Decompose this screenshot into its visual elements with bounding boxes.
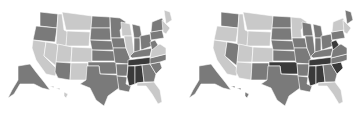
state-me [345, 10, 353, 24]
state-az [55, 62, 71, 80]
state-ut [237, 44, 253, 62]
state-or [33, 26, 57, 42]
state-wy [247, 31, 271, 46]
state-sd [90, 28, 111, 40]
state-az [236, 62, 252, 80]
state-fl [318, 82, 343, 104]
state-fl [137, 82, 162, 104]
state-mt [243, 12, 273, 30]
state-in [315, 38, 321, 52]
state-hi [50, 86, 68, 98]
state-ne [271, 40, 295, 50]
state-co [71, 47, 92, 62]
state-me [164, 10, 172, 24]
state-sd [271, 28, 292, 40]
state-nd [91, 16, 110, 28]
state-or [214, 26, 238, 42]
state-nd [272, 16, 291, 28]
state-in [134, 38, 140, 52]
choropleth-map-right [181, 0, 362, 120]
state-nm [251, 63, 269, 80]
choropleth-map-left [0, 0, 181, 120]
state-mt [62, 12, 92, 30]
state-ia [292, 38, 307, 48]
state-ne [90, 40, 114, 50]
state-ks [273, 50, 296, 61]
state-ks [92, 50, 115, 61]
state-ia [111, 38, 126, 48]
state-ar [116, 64, 128, 76]
state-ar [297, 64, 309, 76]
state-ut [56, 44, 72, 62]
state-wa [221, 12, 239, 28]
state-ms [308, 66, 316, 86]
state-co [252, 47, 273, 62]
state-ms [127, 66, 135, 86]
state-hi [231, 86, 249, 98]
state-nm [70, 63, 88, 80]
state-wa [40, 12, 58, 28]
state-wi [121, 22, 132, 36]
us-map-left [0, 0, 181, 120]
us-map-right [181, 0, 362, 120]
state-wy [66, 31, 90, 46]
state-wi [302, 22, 313, 36]
